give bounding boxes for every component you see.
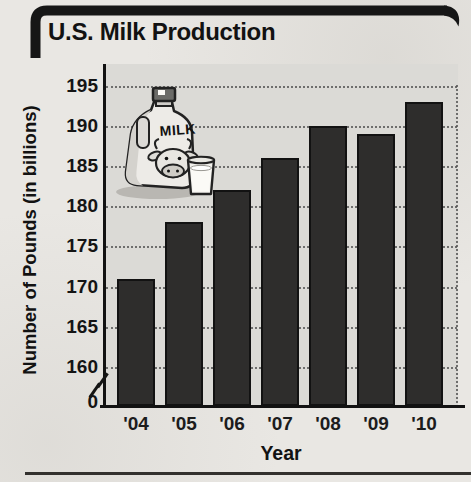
- x-tick-label-09: '09: [352, 413, 400, 435]
- y-tick-label-185: 185: [54, 155, 98, 177]
- bar-05: [165, 222, 203, 406]
- x-tick-label-04: '04: [112, 413, 160, 435]
- bar-08: [309, 126, 347, 406]
- y-tick-label-180: 180: [54, 195, 98, 217]
- y-tick-label-175: 175: [54, 235, 98, 257]
- x-tick-label-05: '05: [160, 413, 208, 435]
- figure-panel: U.S. Milk Production 1951901851801751701…: [0, 0, 471, 482]
- bar-07: [261, 158, 299, 406]
- bar-09: [357, 134, 395, 406]
- x-tick-label-07: '07: [256, 413, 304, 435]
- y-tick-label-190: 190: [54, 115, 98, 137]
- bar-06: [213, 190, 251, 406]
- bar-10: [405, 102, 443, 406]
- bottom-page-rule: [25, 472, 471, 475]
- y-axis-line: [103, 64, 106, 408]
- x-axis-line: [100, 405, 465, 408]
- milk-jug-illustration: MILK: [110, 86, 234, 202]
- x-tick-label-06: '06: [208, 413, 256, 435]
- x-tick-label-10: '10: [400, 413, 448, 435]
- y-tick-label-195: 195: [54, 75, 98, 97]
- x-axis-title: Year: [161, 442, 401, 465]
- y-tick-label-160: 160: [54, 356, 98, 378]
- y-tick-label-170: 170: [54, 276, 98, 298]
- bar-04: [117, 279, 155, 406]
- page-title: U.S. Milk Production: [48, 18, 275, 46]
- plot-right-dotted-edge: [456, 85, 458, 407]
- y-tick-label-165: 165: [54, 316, 98, 338]
- y-axis-title: Number of Pounds (in billions): [19, 105, 41, 374]
- milk-glass-icon: [188, 157, 214, 194]
- x-tick-label-08: '08: [304, 413, 352, 435]
- jug-cap-highlight: [158, 90, 165, 95]
- jug-label-text: MILK: [159, 121, 196, 139]
- jug-handle-hole: [137, 117, 149, 148]
